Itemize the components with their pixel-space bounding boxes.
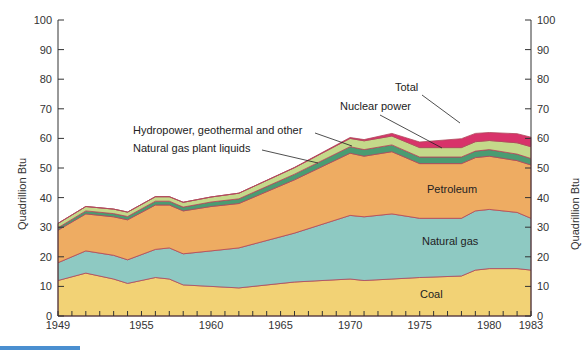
x-tick: 1955 [129, 319, 153, 331]
y-tick-left: 80 [40, 73, 52, 85]
x-tick: 1970 [338, 319, 362, 331]
y-tick-right: 100 [537, 14, 555, 26]
label-petroleum: Petroleum [427, 183, 477, 195]
y-tick-left: 30 [40, 221, 52, 233]
x-tick: 1983 [519, 319, 543, 331]
y-tick-left: 60 [40, 132, 52, 144]
x-tick: 1975 [407, 319, 431, 331]
x-tick: 1980 [477, 319, 501, 331]
y-axis-label-left: Quadrillion Btu [16, 158, 28, 230]
x-tick: 1949 [46, 319, 70, 331]
y-tick-left: 50 [40, 162, 52, 174]
stacked-areas [58, 133, 531, 317]
y-tick-left: 20 [40, 251, 52, 263]
y-tick-right: 20 [537, 251, 549, 263]
label-nuclear: Nuclear power [340, 100, 411, 112]
y-tick-left: 40 [40, 192, 52, 204]
label-total: Total [395, 81, 418, 93]
blue-bar-decoration [0, 346, 80, 350]
y-tick-right: 30 [537, 221, 549, 233]
label-natural-gas: Natural gas [422, 235, 479, 247]
y-tick-right: 60 [537, 132, 549, 144]
x-tick: 1960 [199, 319, 223, 331]
energy-consumption-chart: 0010102020303040405050606070708080909010… [0, 0, 588, 351]
y-tick-right: 70 [537, 103, 549, 115]
y-tick-right: 10 [537, 280, 549, 292]
y-tick-left: 70 [40, 103, 52, 115]
y-tick-right: 90 [537, 44, 549, 56]
y-tick-left: 10 [40, 280, 52, 292]
label-hydro: Hydropower, geothermal and other [133, 124, 303, 136]
label-coal: Coal [420, 288, 443, 300]
y-axis-label-right: Quadrillion Btu [569, 178, 581, 250]
y-tick-right: 40 [537, 192, 549, 204]
label-ngpl: Natural gas plant liquids [133, 142, 251, 154]
y-tick-left: 100 [34, 14, 52, 26]
y-tick-right: 50 [537, 162, 549, 174]
y-tick-left: 90 [40, 44, 52, 56]
y-tick-right: 80 [537, 73, 549, 85]
x-tick: 1965 [268, 319, 292, 331]
